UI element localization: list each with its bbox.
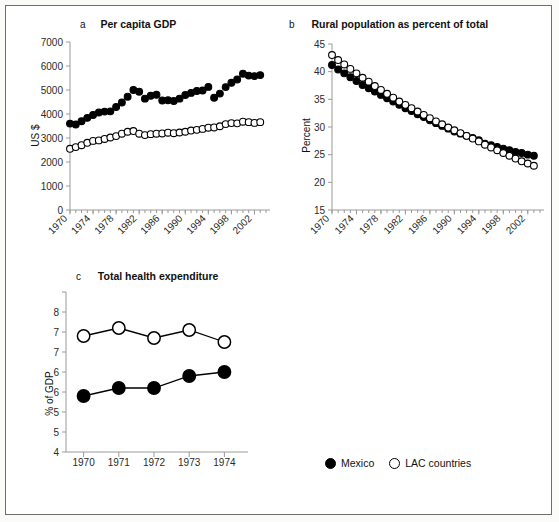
legend-label-mexico: Mexico bbox=[341, 457, 374, 469]
panel-b-rural-population: b Rural population as percent of total P… bbox=[284, 12, 550, 260]
data-point-lac bbox=[359, 74, 366, 81]
y-tick-label: 7 bbox=[53, 327, 59, 338]
y-tick-label: 30 bbox=[314, 122, 326, 133]
data-point-mexico bbox=[347, 74, 354, 81]
open-circle-icon bbox=[389, 458, 400, 469]
y-tick-label: 6000 bbox=[41, 61, 64, 72]
data-point-mexico bbox=[77, 390, 89, 402]
x-tick-label: 1973 bbox=[178, 457, 201, 468]
panel-c-title-text: Total health expenditure bbox=[98, 270, 219, 282]
data-point-lac bbox=[341, 61, 348, 68]
panel-b-letter: b bbox=[289, 19, 295, 30]
data-point-lac bbox=[371, 83, 378, 90]
y-tick-label: 20 bbox=[314, 177, 326, 188]
x-tick-label: 1986 bbox=[406, 212, 430, 236]
panel-a-per-capita-gdp: a Per capita GDP US $ 010002000300040005… bbox=[18, 12, 280, 260]
x-tick-label: 1998 bbox=[207, 212, 231, 236]
data-point-mexico bbox=[341, 70, 348, 77]
data-point-mexico bbox=[118, 99, 125, 106]
data-point-mexico bbox=[335, 66, 342, 73]
data-point-lac bbox=[148, 332, 160, 344]
data-point-mexico bbox=[136, 88, 143, 95]
x-tick-label: 2002 bbox=[504, 212, 528, 236]
data-point-lac bbox=[329, 52, 336, 59]
y-tick-label: 1000 bbox=[41, 181, 64, 192]
y-tick-label: 3000 bbox=[41, 133, 64, 144]
x-tick-label: 1978 bbox=[92, 212, 116, 236]
data-point-lac bbox=[183, 324, 195, 336]
panel-a-letter: a bbox=[80, 19, 86, 30]
x-tick-label: 1970 bbox=[308, 212, 332, 236]
filled-circle-icon bbox=[325, 458, 336, 469]
x-tick-label: 1974 bbox=[69, 212, 93, 236]
y-tick-label: 7000 bbox=[41, 37, 64, 48]
x-tick-label: 1990 bbox=[430, 212, 454, 236]
panel-b-title: b Rural population as percent of total bbox=[289, 18, 488, 30]
panel-a-title-text: Per capita GDP bbox=[100, 18, 176, 30]
figure-root: a Per capita GDP US $ 010002000300040005… bbox=[0, 0, 559, 522]
data-point-mexico bbox=[218, 366, 230, 378]
x-tick-label: 1972 bbox=[143, 457, 166, 468]
x-tick-label: 1998 bbox=[479, 212, 503, 236]
x-tick-label: 1974 bbox=[332, 212, 356, 236]
data-point-mexico bbox=[205, 83, 212, 90]
panel-c-ylabel: % of GDP bbox=[44, 359, 55, 429]
y-tick-label: 4000 bbox=[41, 109, 64, 120]
data-point-lac bbox=[77, 330, 89, 342]
x-tick-label: 1982 bbox=[381, 212, 405, 236]
data-point-lac bbox=[113, 322, 125, 334]
data-point-lac bbox=[384, 90, 391, 97]
y-tick-label: 35 bbox=[314, 94, 326, 105]
y-tick-label: 40 bbox=[314, 66, 326, 77]
x-tick-label: 1982 bbox=[115, 212, 139, 236]
data-point-lac bbox=[347, 66, 354, 73]
y-tick-label: 8 bbox=[53, 307, 59, 318]
data-point-mexico bbox=[530, 152, 537, 159]
data-point-mexico bbox=[183, 370, 195, 382]
data-point-lac bbox=[390, 94, 397, 101]
panel-a-title: a Per capita GDP bbox=[80, 18, 176, 30]
x-tick-label: 1994 bbox=[455, 212, 479, 236]
data-point-lac bbox=[257, 119, 264, 126]
panel-c-letter: c bbox=[76, 271, 81, 282]
y-tick-label: 25 bbox=[314, 149, 326, 160]
x-tick-label: 1970 bbox=[46, 212, 70, 236]
panel-b-ylabel: Percent bbox=[301, 104, 312, 168]
y-tick-label: 2000 bbox=[41, 157, 64, 168]
y-tick-label: 4 bbox=[53, 447, 59, 458]
data-point-mexico bbox=[124, 93, 131, 100]
panel-c-health-expenditure: c Total health expenditure % of GDP 4556… bbox=[18, 266, 318, 496]
data-point-mexico bbox=[113, 104, 120, 111]
panel-a-ylabel: US $ bbox=[30, 106, 41, 166]
data-point-lac bbox=[378, 87, 385, 94]
data-point-lac bbox=[365, 78, 372, 85]
data-point-mexico bbox=[234, 76, 241, 83]
data-point-mexico bbox=[153, 91, 160, 98]
data-point-mexico bbox=[216, 90, 223, 97]
data-point-mexico bbox=[113, 382, 125, 394]
y-tick-label: 5000 bbox=[41, 85, 64, 96]
data-point-mexico bbox=[257, 72, 264, 79]
x-tick-label: 1990 bbox=[161, 212, 185, 236]
data-point-mexico bbox=[329, 62, 336, 69]
y-tick-label: 45 bbox=[314, 39, 326, 50]
x-tick-label: 1978 bbox=[357, 212, 381, 236]
panel-a-plot: 0100020003000400050006000700019701974197… bbox=[18, 12, 280, 260]
panel-c-plot: 4556677819701971197219731974 bbox=[18, 266, 318, 496]
y-tick-label: 7 bbox=[53, 347, 59, 358]
data-point-lac bbox=[218, 336, 230, 348]
data-point-lac bbox=[335, 57, 342, 64]
data-point-mexico bbox=[148, 382, 160, 394]
data-point-lac bbox=[353, 70, 360, 77]
figure-legend: Mexico LAC countries bbox=[325, 457, 481, 469]
data-point-lac bbox=[530, 162, 537, 169]
panel-b-plot: 1520253035404519701974197819821986199019… bbox=[284, 12, 550, 260]
x-tick-label: 1970 bbox=[72, 457, 95, 468]
panel-b-title-text: Rural population as percent of total bbox=[311, 18, 488, 30]
x-tick-label: 1994 bbox=[184, 212, 208, 236]
x-tick-label: 1974 bbox=[213, 457, 236, 468]
panel-c-title: c Total health expenditure bbox=[76, 270, 218, 282]
x-tick-label: 1986 bbox=[138, 212, 162, 236]
x-tick-label: 2002 bbox=[230, 212, 254, 236]
x-tick-label: 1971 bbox=[108, 457, 131, 468]
